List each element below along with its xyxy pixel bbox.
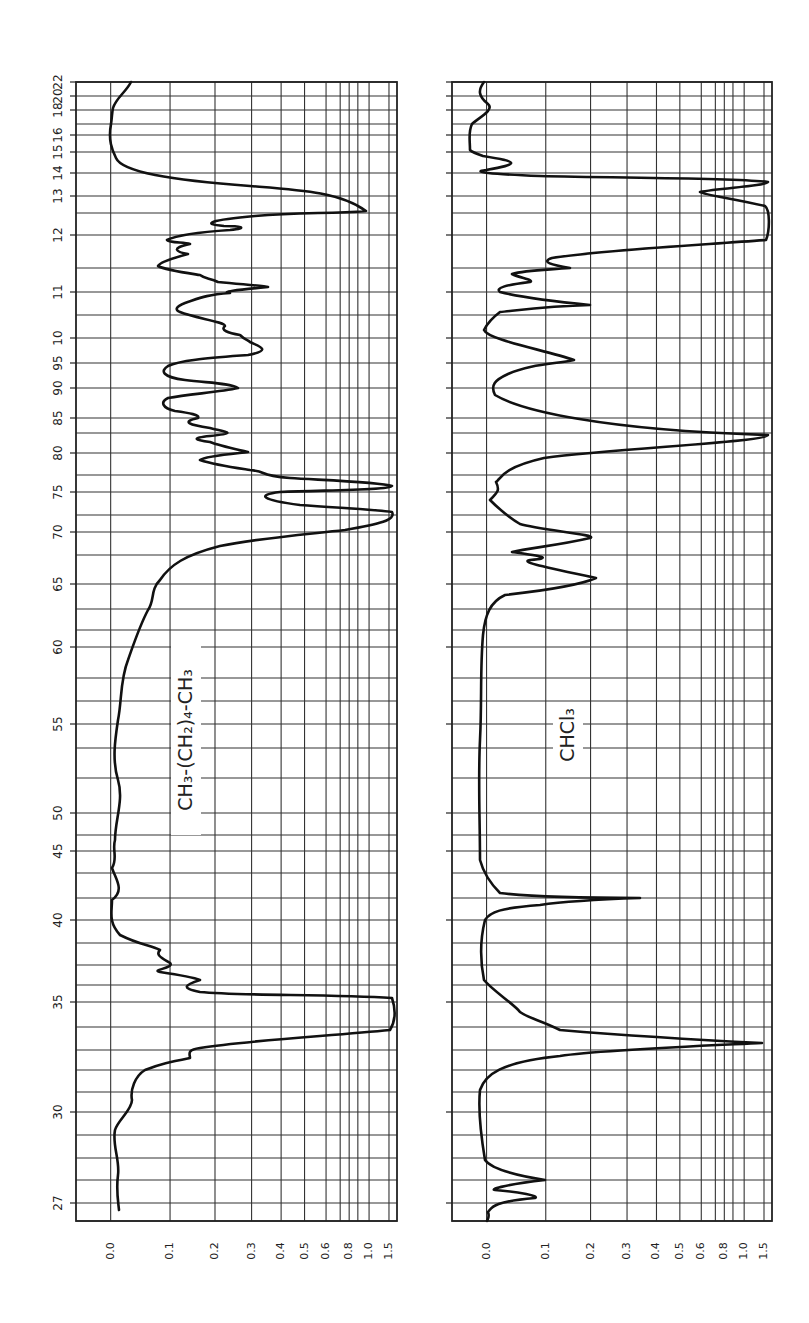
absorbance-tick-label: 0.3	[620, 1242, 633, 1260]
wavelength-tick-label: 95	[51, 355, 65, 370]
absorbance-tick-label: 0.5	[673, 1242, 686, 1260]
wavelength-tick-label: 10	[51, 330, 65, 345]
ir-spectra-figure: 0.00.10.20.30.40.50.60.81.01.5 0.00.10.2…	[0, 0, 809, 1323]
compound-label-hexane: CH₃-(CH₂)₄-CH₃	[171, 645, 201, 835]
wavelength-tick-label: 27	[51, 1195, 65, 1210]
wavelength-tick-label: 30	[51, 1104, 65, 1119]
absorbance-tick-label: 0.6	[694, 1242, 707, 1260]
wavelength-tick-label: 45	[51, 843, 65, 858]
wavelength-tick-label: 85	[51, 410, 65, 425]
absorbance-tick-label: 0.4	[274, 1242, 287, 1260]
spectra-svg: 0.00.10.20.30.40.50.60.81.01.5 0.00.10.2…	[0, 0, 809, 1323]
compound-label-chloroform: CHCl₃	[553, 705, 583, 765]
absorbance-tick-label: 0.1	[163, 1242, 176, 1260]
absorbance-tick-label: 1.0	[737, 1242, 750, 1260]
absorbance-tick-label: 0.8	[717, 1242, 730, 1260]
absorbance-tick-label: 0.1	[539, 1242, 552, 1260]
absorbance-tick-label: 0.0	[480, 1242, 493, 1260]
wavelength-axis: 2220181615141312111095908580757065605550…	[51, 74, 65, 1210]
absorbance-tick-label: 1.0	[362, 1242, 375, 1260]
spectrum-panel-chloroform: 0.00.10.20.30.40.50.60.81.01.5	[446, 82, 772, 1260]
absorbance-tick-label: 0.3	[245, 1242, 258, 1260]
absorbance-tick-label: 0.8	[342, 1242, 355, 1260]
wavelength-tick-label: 55	[51, 716, 65, 731]
compound-label-text: CHCl₃	[556, 708, 578, 762]
absorbance-tick-label: 0.5	[298, 1242, 311, 1260]
spectrum-panel-hexane: 0.00.10.20.30.40.50.60.81.01.5	[70, 82, 397, 1260]
absorbance-tick-label: 0.2	[208, 1242, 221, 1260]
wavelength-tick-label: 90	[51, 380, 65, 395]
wavelength-tick-label: 60	[51, 639, 65, 654]
absorbance-tick-label: 0.4	[649, 1242, 662, 1260]
wavelength-tick-label: 65	[51, 576, 65, 591]
compound-label-text: CH₃-(CH₂)₄-CH₃	[174, 669, 196, 811]
wavelength-tick-label: 15	[51, 144, 65, 159]
wavelength-tick-label: 20	[51, 88, 65, 103]
wavelength-tick-label: 35	[51, 994, 65, 1009]
absorbance-tick-label: 1.5	[382, 1242, 395, 1260]
wavelength-tick-label: 80	[51, 445, 65, 460]
wavelength-tick-label: 11	[51, 284, 65, 299]
wavelength-tick-label: 12	[51, 227, 65, 242]
wavelength-tick-label: 70	[51, 524, 65, 539]
wavelength-tick-label: 18	[51, 102, 65, 117]
spectrum-trace	[110, 82, 395, 1210]
absorbance-tick-label: 0.2	[584, 1242, 597, 1260]
wavelength-tick-label: 75	[51, 484, 65, 499]
wavelength-tick-label: 50	[51, 805, 65, 820]
wavelength-tick-label: 14	[51, 165, 65, 180]
wavelength-tick-label: 13	[51, 188, 65, 203]
wavelength-tick-label: 16	[51, 127, 65, 142]
wavelength-tick-label: 40	[51, 912, 65, 927]
absorbance-tick-label: 1.5	[757, 1242, 770, 1260]
absorbance-tick-label: 0.6	[319, 1242, 332, 1260]
wavelength-tick-label: 22	[51, 74, 65, 89]
absorbance-tick-label: 0.0	[104, 1242, 117, 1260]
